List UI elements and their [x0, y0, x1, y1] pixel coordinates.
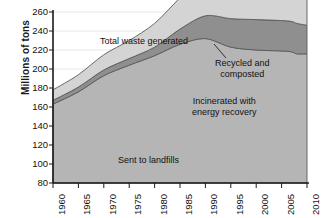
x-tick-1965: 1965 [82, 194, 92, 215]
annotation-incinerated-line2: energy recovery [192, 107, 257, 118]
x-tick-1985: 1985 [184, 194, 194, 215]
x-tick-2000: 2000 [260, 194, 270, 215]
annotation-recycled: Recycled and composted [215, 58, 270, 79]
annotation-recycled-line2: composted [215, 69, 270, 80]
x-tick-1980: 1980 [159, 194, 169, 215]
annotation-incinerated: Incinerated with energy recovery [192, 96, 257, 117]
x-axis-tick-labels: 1960196519701975198019851990199520002005… [0, 0, 326, 218]
annotation-incinerated-line1: Incinerated with [192, 96, 257, 107]
annotation-total-waste: Total waste generated [100, 36, 188, 47]
x-tick-1970: 1970 [108, 194, 118, 215]
x-tick-1960: 1960 [57, 194, 67, 215]
x-tick-2010: 2010 [311, 194, 321, 215]
x-tick-2005: 2005 [286, 194, 296, 215]
annotation-recycled-line1: Recycled and [215, 58, 270, 69]
waste-generation-area-chart: Millions of tons 26024022020018016014012… [0, 0, 326, 218]
x-tick-1995: 1995 [235, 194, 245, 215]
x-tick-1975: 1975 [133, 194, 143, 215]
x-tick-1990: 1990 [209, 194, 219, 215]
annotation-landfills: Sent to landfills [118, 155, 179, 166]
